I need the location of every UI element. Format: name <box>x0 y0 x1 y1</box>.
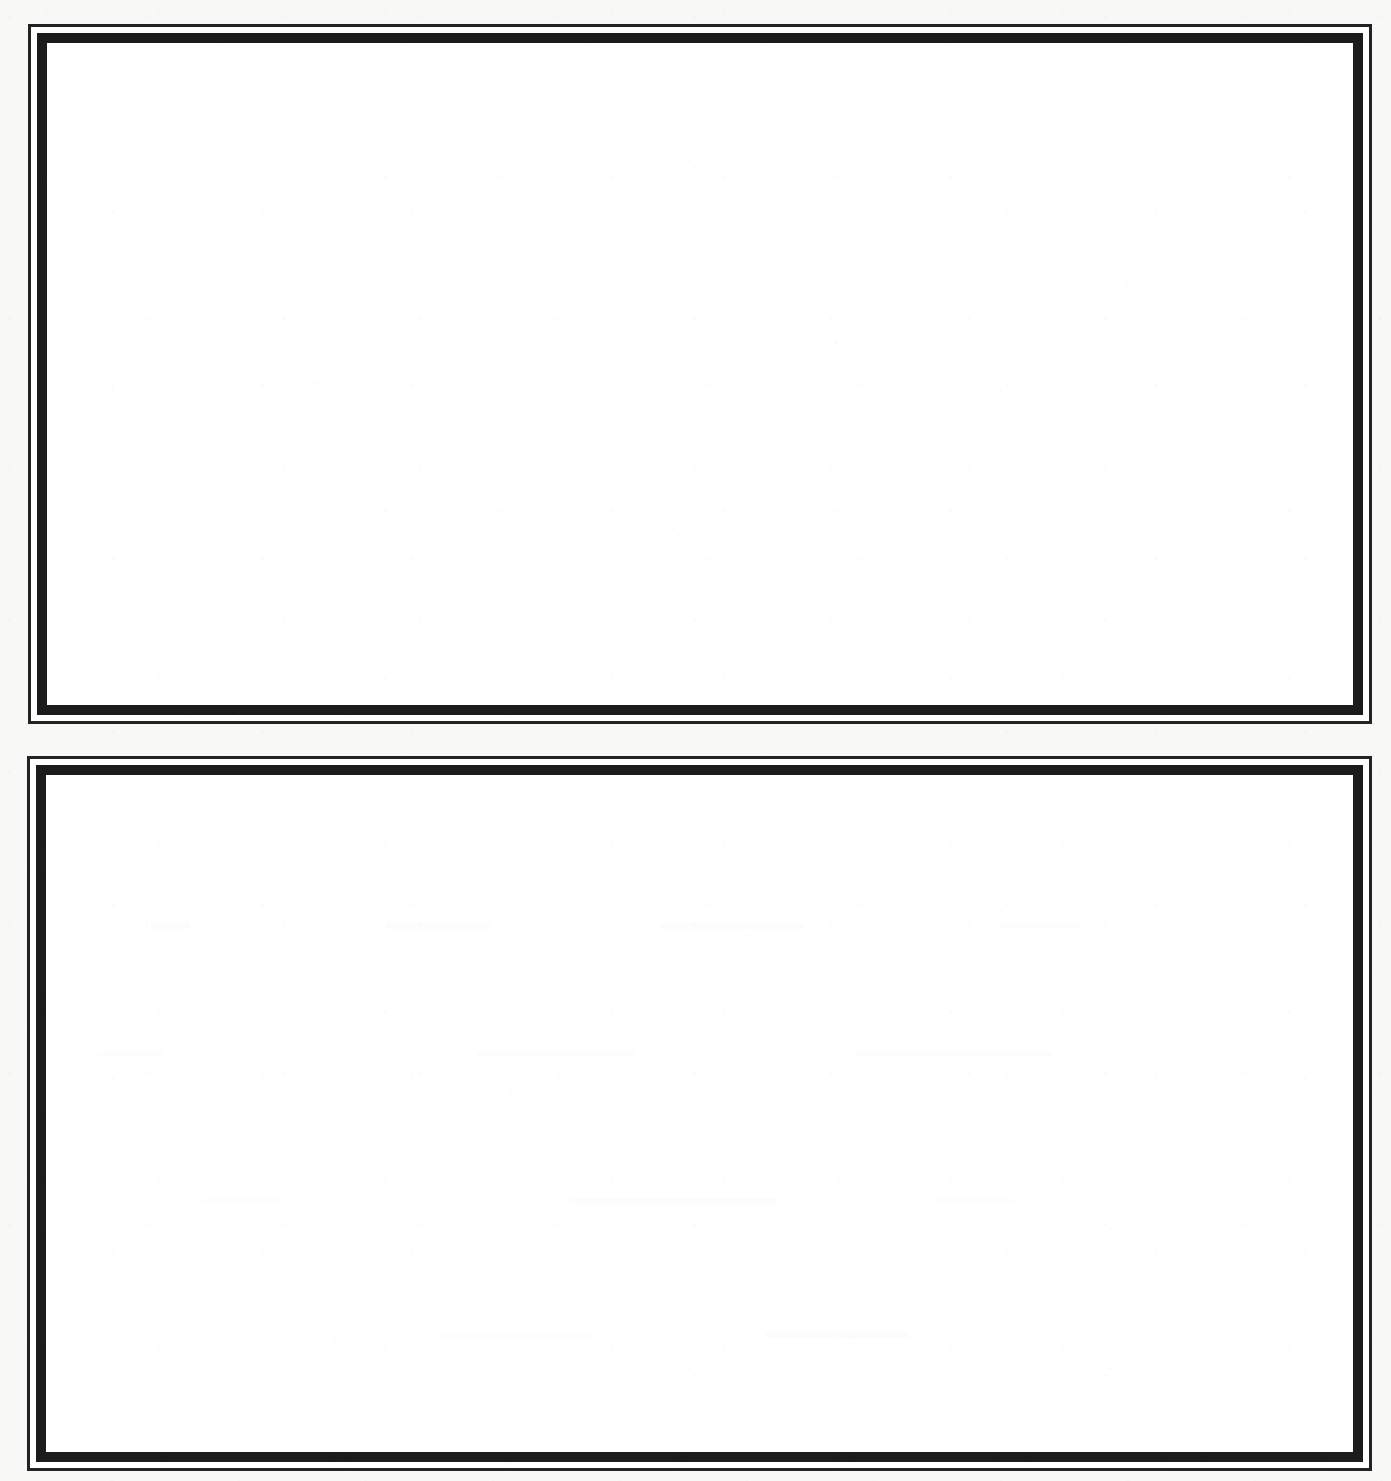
frame-top-content-area[interactable] <box>47 43 1353 705</box>
document-frame-bottom: Lower bordered panel <box>27 756 1372 1471</box>
frame-bottom-content-area[interactable] <box>46 775 1353 1452</box>
frame-bottom-ghost-marks <box>46 775 1353 1452</box>
scanned-page: Upper bordered panel Lower bordered pane… <box>0 0 1391 1481</box>
document-frame-top: Upper bordered panel <box>28 24 1372 724</box>
